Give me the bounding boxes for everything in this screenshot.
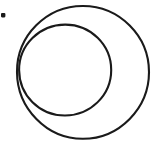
figure-canvas: Two overlapping circles with a dot (0, 0, 156, 143)
corner-dot-group (1, 13, 5, 17)
circles-diagram: Two overlapping circles with a dot (0, 0, 156, 143)
corner-dot (1, 13, 5, 17)
figure-background (0, 0, 156, 143)
